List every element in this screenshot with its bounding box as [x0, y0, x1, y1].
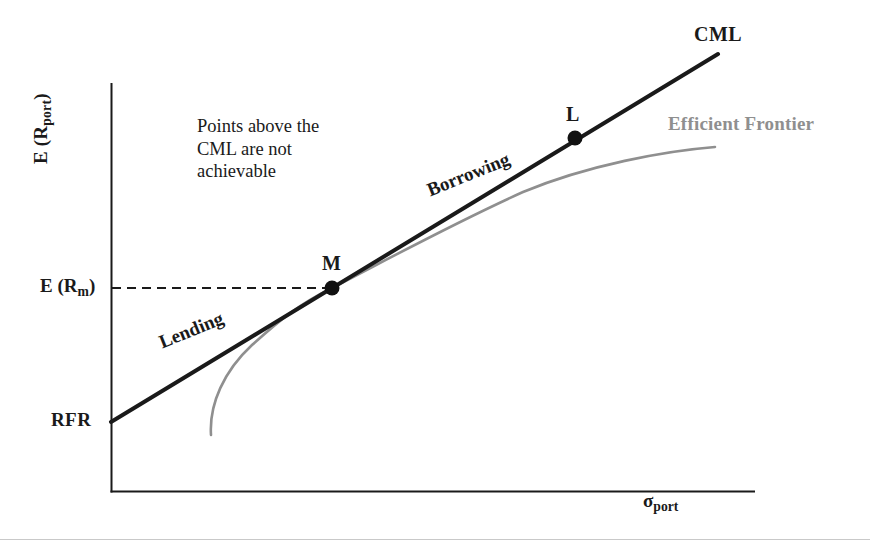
cml-line — [111, 54, 718, 422]
risk-free-rate-label: RFR — [51, 409, 91, 431]
x-axis-title-main: σ — [643, 490, 653, 511]
point-m-marker — [325, 281, 340, 296]
y-axis-title-close: ) — [30, 93, 51, 100]
point-l-label: L — [566, 103, 579, 126]
y-axis-title: E (Rport) — [30, 136, 55, 164]
cml-efficient-frontier-figure: E (Rport) σport E (Rm) RFR Points above … — [0, 0, 870, 556]
expected-market-return-label: E (Rm) — [40, 275, 95, 300]
efficient-frontier-label: Efficient Frontier — [668, 113, 814, 135]
page-divider-rule — [0, 539, 870, 540]
x-axis-title: σport — [643, 490, 678, 515]
y-axis-title-subscript: port — [39, 100, 54, 126]
cml-label: CML — [694, 23, 742, 46]
point-m-label: M — [322, 252, 341, 275]
erm-label-subscript: m — [77, 284, 88, 299]
x-axis-title-subscript: port — [653, 499, 678, 514]
point-l-marker — [568, 131, 583, 146]
efficient-frontier-curve — [211, 147, 715, 435]
erm-label-main: E (R — [40, 275, 77, 296]
y-axis-title-main: E (R — [30, 126, 51, 164]
unachievable-region-note: Points above the CML are not achievable — [197, 115, 319, 183]
plot-canvas — [0, 0, 870, 556]
erm-label-close: ) — [89, 275, 95, 296]
